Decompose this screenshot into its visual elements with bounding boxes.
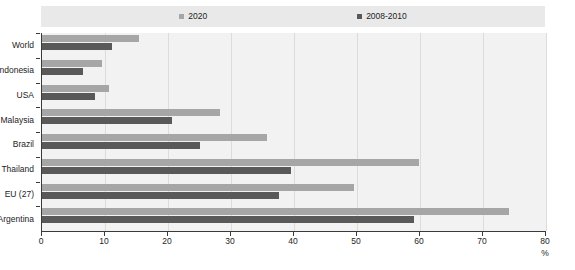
x-axis-label: 80 [540,236,549,246]
x-axis-tick [545,232,546,236]
y-axis-tick [36,107,40,108]
y-axis-label: Brazil [13,139,34,149]
bar-chart: 2020 2008-2010 WorldIndonesiaUSAMalaysia… [0,0,575,270]
x-axis-labels: 01020304050607080 [41,236,545,248]
x-axis-label: 50 [351,236,360,246]
x-axis-tick [167,232,168,236]
y-axis-tick [36,33,40,34]
x-axis-tick [356,232,357,236]
bar-group [42,107,546,132]
y-axis-tick [36,58,40,59]
gridline [546,33,547,231]
legend-label: 2020 [188,12,207,21]
bar-group [42,206,546,231]
bar-world-2020 [42,35,139,42]
y-axis-label: USA [17,90,34,100]
plot-area [41,33,546,232]
legend-item-2020: 2020 [179,12,207,21]
x-axis-tick [482,232,483,236]
bar-group [42,58,546,83]
bar-usa-2020 [42,85,109,92]
x-axis-label: 40 [288,236,297,246]
bar-thailand-2008-2010 [42,167,291,174]
y-axis-label: World [12,40,34,50]
x-axis-unit-label: % [541,248,549,258]
y-axis-tick [36,132,40,133]
bar-malaysia-2020 [42,109,220,116]
bar-argentina-2008-2010 [42,216,414,223]
y-axis-tick [36,206,40,207]
y-axis: WorldIndonesiaUSAMalaysiaBrazilThailandE… [0,33,38,231]
bar-eu-27--2008-2010 [42,192,279,199]
x-axis-label: 20 [162,236,171,246]
bar-thailand-2020 [42,159,419,166]
y-axis-label: Malaysia [0,115,34,125]
y-axis-label: Argentina [0,214,34,224]
bar-usa-2008-2010 [42,93,95,100]
bar-indonesia-2020 [42,60,102,67]
bar-brazil-2008-2010 [42,142,200,149]
y-axis-label: Indonesia [0,65,34,75]
x-axis-tick [419,232,420,236]
legend-item-2008-2010: 2008-2010 [357,12,407,21]
bar-group [42,33,546,58]
bar-group [42,83,546,108]
y-axis-label: Thailand [1,164,34,174]
x-axis-tick [41,232,42,236]
bar-group [42,157,546,182]
y-axis-tick [36,83,40,84]
x-axis-label: 10 [99,236,108,246]
bar-group [42,182,546,207]
bar-indonesia-2008-2010 [42,68,83,75]
bar-group [42,132,546,157]
x-axis-label: 70 [477,236,486,246]
chart-legend: 2020 2008-2010 [41,6,545,27]
y-axis-tick [36,157,40,158]
y-axis-label: EU (27) [5,189,34,199]
bar-brazil-2020 [42,134,267,141]
square-marker-icon [179,14,184,19]
bar-argentina-2020 [42,208,509,215]
x-axis-tick [230,232,231,236]
x-axis-tick [293,232,294,236]
bar-malaysia-2008-2010 [42,117,172,124]
bar-world-2008-2010 [42,43,112,50]
y-axis-tick [36,182,40,183]
legend-label: 2008-2010 [366,12,407,21]
bar-rows [42,33,546,231]
x-axis-label: 0 [39,236,44,246]
square-marker-icon [357,14,362,19]
x-axis-label: 60 [414,236,423,246]
x-axis-tick [104,232,105,236]
bar-eu-27--2020 [42,184,354,191]
x-axis-label: 30 [225,236,234,246]
